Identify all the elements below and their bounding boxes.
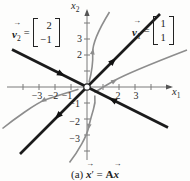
x-axis-label-sub: 1 (177, 91, 181, 100)
v1-entry-2: 1 (161, 31, 166, 45)
caption-prime: ′ (91, 168, 93, 180)
x-tick-pos2: 2 (110, 90, 126, 101)
y-tick-neg2: −2 (60, 116, 80, 127)
v2-matrix: 2 −1 (33, 18, 60, 47)
v1-equals: = (144, 25, 150, 36)
phase-portrait-figure: x1 x2 −3 −2 −1 2 3 3 2 −1 −2 −3 →v2 = 2 … (0, 0, 190, 181)
v2-equals: = (24, 27, 30, 38)
y-tick-neg3: −3 (60, 133, 80, 144)
v2-inward-arrow-q2-icon (56, 70, 65, 76)
y-tick-pos3: 3 (62, 33, 82, 44)
caption-index: (a) (71, 168, 83, 180)
v2-symbol: →v2 (12, 22, 21, 43)
v1-matrix: 1 1 (153, 16, 174, 45)
caption-x-letter-2: x (114, 168, 120, 180)
v1-symbol: →v1 (132, 20, 141, 41)
vector-arrow-icon: → (86, 160, 94, 168)
trajectory-upper (89, 12, 110, 83)
y-tick-neg1: −1 (60, 98, 80, 109)
caption-matrix-A: A (106, 168, 114, 180)
y-axis-arrow-icon (84, 9, 89, 16)
eigenvector-v1-label: →v1 = 1 1 (132, 16, 174, 45)
vector-arrow-icon: → (133, 17, 141, 25)
origin-marker (84, 84, 90, 90)
x-axis-label: x1 (172, 86, 180, 101)
v2-entries: 2 −1 (38, 18, 55, 47)
x-tick-pos3: 3 (128, 90, 144, 101)
v2-entry-1: 2 (46, 19, 51, 33)
vector-arrow-icon: → (114, 160, 122, 168)
eigenvector-v2-label: →v2 = 2 −1 (12, 18, 60, 47)
v2-entry-2: −1 (41, 33, 52, 47)
v1-subscript: 1 (137, 32, 141, 41)
right-bracket-icon (169, 16, 174, 45)
caption-x-vector: →x (86, 163, 92, 180)
y-axis-label-sub: 2 (76, 5, 80, 14)
right-bracket-icon (55, 18, 60, 47)
v2-subscript: 2 (17, 34, 21, 43)
v1-entry-1: 1 (161, 17, 166, 31)
x-tick-neg3: −3 (29, 90, 45, 101)
y-axis-label: x2 (71, 0, 79, 15)
figure-caption: (a) →x′ = A→x (0, 163, 190, 180)
vector-arrow-icon: → (13, 19, 21, 27)
caption-x-letter: x (86, 168, 92, 180)
y-tick-pos2: 2 (62, 49, 82, 60)
caption-x-vector-2: →x (114, 163, 120, 180)
v1-entries: 1 1 (158, 16, 169, 45)
caption-equals: = (97, 168, 103, 180)
